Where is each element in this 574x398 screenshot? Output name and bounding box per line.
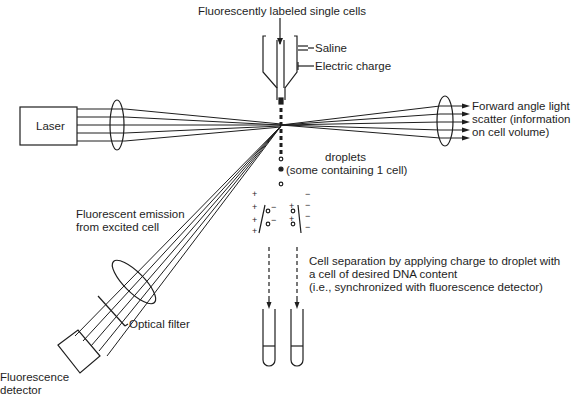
right-plate bbox=[298, 205, 301, 233]
svg-text:+: + bbox=[252, 215, 257, 225]
droplet-icon bbox=[279, 182, 283, 186]
flow-cytometry-diagram: ++++ −− ++ −−−− bbox=[0, 0, 574, 398]
saline-label: Saline bbox=[315, 42, 347, 55]
forward-scatter-label-2: scatter (information bbox=[472, 113, 570, 126]
svg-text:+: + bbox=[289, 214, 294, 224]
left-plate bbox=[259, 205, 265, 233]
forward-scatter-label-3: on cell volume) bbox=[472, 126, 549, 139]
svg-text:−: − bbox=[305, 211, 310, 221]
droplets-label-2: (some containing 1 cell) bbox=[286, 164, 407, 177]
plate-charges: ++++ −− ++ −−−− bbox=[252, 189, 310, 236]
svg-text:−: − bbox=[271, 215, 276, 225]
svg-text:+: + bbox=[252, 189, 257, 199]
laser-beams bbox=[77, 109, 281, 141]
svg-text:−: − bbox=[305, 189, 310, 199]
droplet-stream bbox=[280, 108, 283, 154]
forward-scatter-label-1: Forward angle light bbox=[472, 100, 570, 113]
left-tube-icon bbox=[263, 309, 275, 366]
forward-scatter-beams bbox=[281, 106, 467, 138]
emission-label-2: from excited cell bbox=[76, 221, 159, 234]
scatter-arrowheads-icon bbox=[462, 104, 470, 141]
svg-text:−: − bbox=[305, 200, 310, 210]
svg-text:+: + bbox=[252, 202, 257, 212]
svg-text:−: − bbox=[305, 222, 310, 232]
optical-filter-label: Optical filter bbox=[129, 318, 190, 331]
detector-label-1: Fluorescence bbox=[0, 371, 69, 384]
separation-label-1: Cell separation by applying charge to dr… bbox=[309, 255, 560, 268]
fluorescence-detector-box bbox=[58, 330, 100, 373]
droplet-cell-icon bbox=[279, 167, 283, 171]
input-arrow-icon bbox=[277, 18, 283, 45]
emission-label-1: Fluorescent emission bbox=[76, 208, 185, 221]
title-input-label: Fluorescently labeled single cells bbox=[198, 5, 366, 18]
droplets-label-1: droplets bbox=[325, 151, 366, 164]
svg-text:+: + bbox=[252, 226, 257, 236]
detector-label-2: detector bbox=[0, 384, 42, 397]
separation-label-2: a cell of desired DNA content bbox=[309, 268, 457, 281]
right-tube-icon bbox=[291, 309, 303, 366]
separation-label-3: (i.e., synchronized with fluorescence de… bbox=[309, 281, 543, 294]
droplet-icon bbox=[279, 157, 283, 161]
svg-text:−: − bbox=[271, 202, 276, 212]
laser-label: Laser bbox=[36, 120, 65, 133]
electric-charge-label: Electric charge bbox=[315, 60, 391, 73]
emission-lens-icon bbox=[106, 254, 161, 309]
svg-text:+: + bbox=[289, 201, 294, 211]
nozzle-icon bbox=[263, 36, 314, 104]
